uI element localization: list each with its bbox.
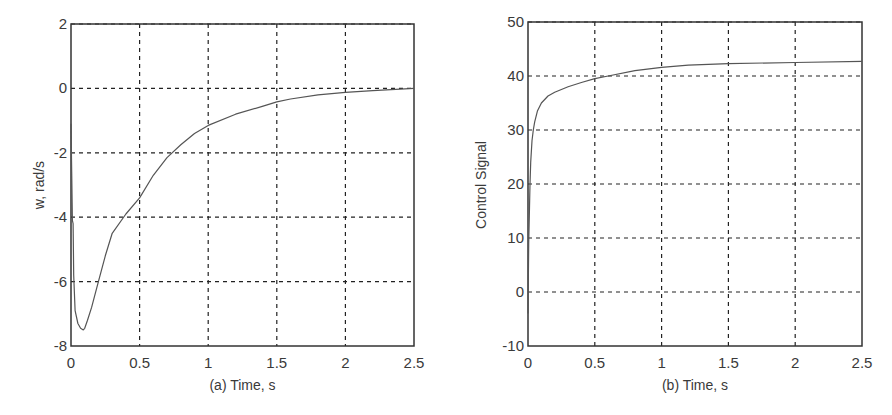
y-tick-label: 20 [507, 175, 524, 192]
x-tick-label: 1 [204, 354, 212, 371]
x-tick-label: 0 [67, 354, 75, 371]
x-tick-label: 2 [791, 354, 799, 371]
x-tick-labels: 00.511.522.5 [524, 354, 873, 371]
y-tick-labels: -8-6-4-202 [54, 15, 67, 354]
data-line-w [71, 88, 414, 330]
chart-a-plot: 00.511.522.5-8-6-4-202(a) Time, sw, rad/… [0, 0, 446, 415]
y-tick-label: 10 [507, 229, 524, 246]
x-tick-label: 0 [524, 354, 532, 371]
x-tick-label: 0.5 [584, 354, 605, 371]
y-tick-label: 0 [59, 79, 67, 96]
y-tick-labels: -1001020304050 [502, 13, 524, 354]
y-tick-label: -8 [54, 337, 67, 354]
y-tick-label: 0 [516, 283, 524, 300]
y-axis-label: Control Signal [473, 141, 489, 229]
y-tick-label: -2 [54, 144, 67, 161]
y-tick-label: 30 [507, 121, 524, 138]
x-tick-label: 2 [341, 354, 349, 371]
data-line-u [528, 61, 862, 313]
x-axis-label: (b) Time, s [662, 377, 728, 393]
x-tick-label: 1.5 [718, 354, 739, 371]
y-tick-label: 50 [507, 13, 524, 30]
y-tick-label: 40 [507, 67, 524, 84]
x-tick-label: 1 [657, 354, 665, 371]
y-tick-label: 2 [59, 15, 67, 32]
grid-lines [528, 22, 862, 346]
chart-b-plot: 00.511.522.5-1001020304050(b) Time, sCon… [446, 0, 892, 415]
y-tick-label: -6 [54, 273, 67, 290]
chart-b-control-signal: 00.511.522.5-1001020304050(b) Time, sCon… [446, 0, 892, 415]
y-tick-label: -4 [54, 208, 67, 225]
y-tick-label: -10 [502, 337, 524, 354]
x-tick-label: 2.5 [404, 354, 425, 371]
x-tick-label: 2.5 [852, 354, 873, 371]
grid-lines [71, 24, 414, 346]
x-axis-label: (a) Time, s [209, 377, 275, 393]
x-tick-label: 1.5 [266, 354, 287, 371]
x-tick-label: 0.5 [129, 354, 150, 371]
y-axis-label: w, rad/s [31, 161, 47, 210]
x-tick-labels: 00.511.522.5 [67, 354, 425, 371]
chart-a-speed-response: 00.511.522.5-8-6-4-202(a) Time, sw, rad/… [0, 0, 446, 415]
axes-frame [71, 24, 414, 346]
